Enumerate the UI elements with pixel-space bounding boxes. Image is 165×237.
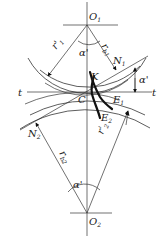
alpha-top-arc — [78, 41, 100, 45]
gear-mesh-diagram: O1 O2 C K N1 N2 E1 E2 t t r'1 rb1 rb2 r'… — [0, 0, 165, 237]
label-alpha-top: α' — [79, 47, 89, 58]
label-alpha-right: α' — [139, 74, 149, 85]
label-e1: E1 — [112, 94, 124, 106]
label-t-left: t — [18, 87, 23, 98]
label-o2: O2 — [89, 216, 101, 228]
label-alpha-bottom: α' — [73, 179, 83, 190]
label-o1: O1 — [89, 11, 101, 23]
rb2-line — [36, 123, 87, 213]
label-t-right: t — [152, 87, 157, 98]
gear2-pitch-circle — [20, 110, 150, 129]
tooth-profile-2 — [92, 76, 100, 118]
label-n1: N1 — [112, 55, 126, 67]
label-c: C — [78, 94, 86, 105]
label-n2: N2 — [27, 128, 41, 140]
label-e2: E2 — [100, 112, 112, 124]
label-k: K — [90, 71, 99, 82]
label-r1-prime: r'1 — [49, 36, 65, 52]
